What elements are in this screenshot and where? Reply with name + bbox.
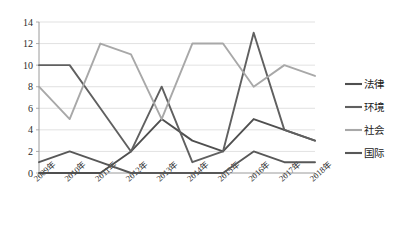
x-axis-label-4: 2013年 xyxy=(154,159,180,184)
y-axis-label-10: 10 xyxy=(23,60,33,71)
y-axis-label-8: 8 xyxy=(28,81,33,92)
legend-label-法律[interactable]: 法律 xyxy=(364,78,385,90)
y-axis-label-14: 14 xyxy=(23,17,33,28)
legend-label-社会[interactable]: 社会 xyxy=(364,124,385,136)
y-axis-label-6: 6 xyxy=(28,103,33,114)
x-axis-label-5: 2014年 xyxy=(185,159,211,184)
x-axis-label-0: 2009年 xyxy=(32,159,58,184)
y-axis-label-12: 12 xyxy=(23,38,33,49)
y-axis-label-4: 4 xyxy=(28,124,33,135)
y-axis-label-2: 2 xyxy=(28,146,33,157)
chart-canvas: 024681012142009年2010年2011年2012年2013年2014… xyxy=(0,0,404,227)
legend-label-环境[interactable]: 环境 xyxy=(364,101,384,113)
title-fragment-right xyxy=(52,0,352,11)
x-axis-label-1: 2010年 xyxy=(62,159,88,184)
series-line-环境 xyxy=(39,33,315,162)
line-chart: 024681012142009年2010年2011年2012年2013年2014… xyxy=(0,0,404,227)
legend-label-国际[interactable]: 国际 xyxy=(364,148,384,159)
x-axis-label-7: 2016年 xyxy=(246,159,272,184)
